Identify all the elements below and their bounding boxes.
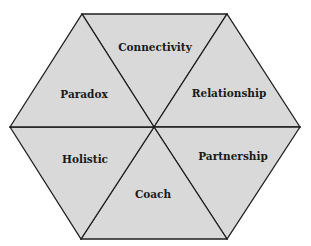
- label-connectivity: Connectivity: [118, 41, 192, 53]
- label-coach: Coach: [135, 188, 172, 200]
- label-partnership: Partnership: [198, 150, 268, 162]
- label-relationship: Relationship: [192, 87, 267, 99]
- hexagon-diagram: Connectivity Relationship Partnership Co…: [0, 0, 311, 246]
- label-paradox: Paradox: [60, 88, 108, 100]
- label-holistic: Holistic: [62, 153, 108, 165]
